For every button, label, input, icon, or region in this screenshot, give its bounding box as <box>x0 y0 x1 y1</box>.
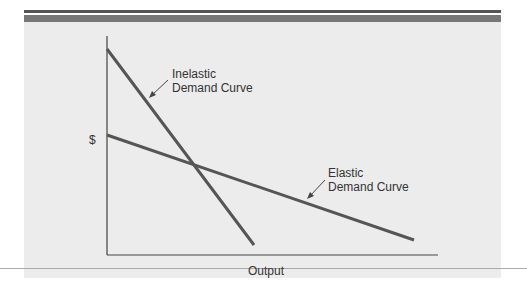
inelastic-label-line1: Inelastic <box>172 67 216 81</box>
chart-plot <box>0 0 527 301</box>
x-axis-label: Output <box>248 264 284 278</box>
elastic-label-line2: Demand Curve <box>328 180 409 194</box>
y-axis-label: $ <box>89 133 96 147</box>
inelastic-label-line2: Demand Curve <box>172 81 253 95</box>
elastic-label-line1: Elastic <box>328 166 363 180</box>
